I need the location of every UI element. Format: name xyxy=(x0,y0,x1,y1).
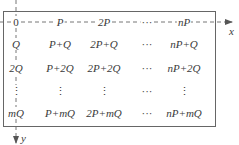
cell-r0-c4: nP xyxy=(177,16,191,28)
cell-r2-c2: 2P+2Q xyxy=(86,62,121,74)
cell-r4-c2: 2P+mQ xyxy=(85,107,123,119)
cell-r4-c1: P+mQ xyxy=(44,107,76,119)
cell-r2-c0: 2Q xyxy=(8,62,23,74)
cell-r4-c4: nP+mQ xyxy=(165,107,203,119)
cell-r3-c0: ⋮ xyxy=(10,85,23,97)
y-axis-label: y xyxy=(21,132,26,144)
cell-r1-ellipsis: ··· xyxy=(141,38,154,50)
cell-r3-c4: ⋮ xyxy=(178,85,191,97)
cell-r2-c1: P+2Q xyxy=(45,62,75,74)
cell-r0-ellipsis: ··· xyxy=(141,16,154,28)
cell-r2-c4: nP+2Q xyxy=(166,62,201,74)
cell-r4-c0: mQ xyxy=(7,107,25,119)
cell-r0-c2: 2P xyxy=(97,16,111,28)
cell-r1-c2: 2P+Q xyxy=(89,38,119,50)
cell-origin: 0 xyxy=(12,16,20,28)
cell-r4-ellipsis: ··· xyxy=(141,107,154,119)
cell-r3-c1: ⋮ xyxy=(54,85,67,97)
cell-r3-c2: ⋮ xyxy=(98,85,111,97)
cell-r3-ellipsis: ··· xyxy=(141,85,154,97)
cell-r0-c1: P xyxy=(56,16,65,28)
cell-r1-c1: P+Q xyxy=(48,38,72,50)
cell-r2-ellipsis: ··· xyxy=(141,62,154,74)
cell-r1-c0: Q xyxy=(11,38,21,50)
x-axis-label: x xyxy=(229,25,234,37)
cell-r1-c4: nP+Q xyxy=(169,38,199,50)
